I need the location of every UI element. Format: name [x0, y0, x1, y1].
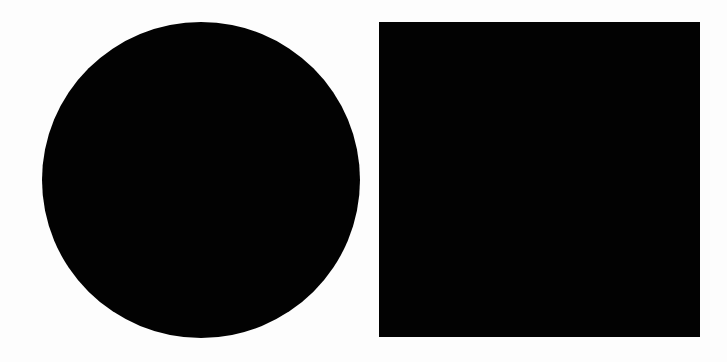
black-square	[379, 22, 700, 337]
black-circle	[42, 22, 360, 338]
